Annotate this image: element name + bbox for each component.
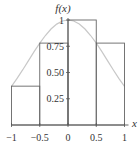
x-tick-label: 1 — [122, 132, 127, 143]
y-tick-label: 0.75 — [47, 41, 65, 52]
x-tick-label: 0.5 — [90, 132, 103, 143]
riemann-rectangle — [40, 43, 68, 125]
x-axis-title: x — [131, 117, 137, 129]
y-tick-label: 1 — [59, 15, 64, 26]
y-tick-label: 0.50 — [47, 67, 65, 78]
x-tick-label: 0 — [66, 132, 71, 143]
riemann-rectangle — [12, 86, 40, 125]
y-ticks: 0.250.500.751 — [47, 15, 71, 105]
axes — [12, 18, 129, 125]
x-tick-label: −0.5 — [31, 132, 49, 143]
riemann-sum-chart: −1−0.500.51 0.250.500.751 f(x) x — [0, 0, 138, 150]
riemann-rectangle — [68, 20, 96, 125]
x-ticks: −1−0.500.51 — [6, 123, 127, 143]
y-tick-label: 0.25 — [47, 93, 65, 104]
y-axis-title: f(x) — [55, 2, 71, 15]
x-tick-label: −1 — [6, 132, 17, 143]
riemann-rectangle — [96, 43, 124, 125]
